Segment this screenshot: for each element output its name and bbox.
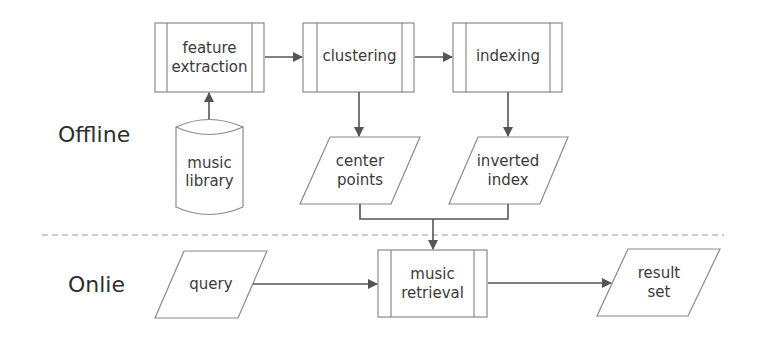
result-set-line1: result: [638, 264, 680, 282]
center-points-line2: points: [337, 171, 383, 189]
inverted-index-line1: inverted: [477, 152, 540, 170]
center-points-label: center points: [318, 137, 402, 204]
music-library-label: music library: [176, 138, 243, 206]
music-retrieval-line1: music: [410, 265, 454, 283]
offline-label: Offline: [58, 122, 130, 147]
indexing-label: indexing: [466, 23, 550, 90]
clustering-line1: clustering: [322, 47, 396, 65]
result-set-line2: set: [648, 283, 671, 301]
result-set-label: result set: [614, 249, 704, 316]
music-retrieval-label: music retrieval: [391, 250, 474, 317]
indexing-line1: indexing: [476, 47, 540, 65]
center-points-line1: center: [336, 152, 384, 170]
music-retrieval-line2: retrieval: [401, 284, 464, 302]
feature-extraction-label: feature extraction: [167, 23, 252, 92]
connector-center-inverted: [360, 204, 508, 219]
query-label: query: [170, 251, 252, 318]
music-library-line2: library: [185, 172, 233, 190]
query-line1: query: [189, 275, 232, 293]
inverted-index-label: inverted index: [466, 137, 550, 204]
inverted-index-line2: index: [487, 171, 528, 189]
music-library-line1: music: [187, 154, 231, 172]
online-label: Onlie: [68, 272, 125, 297]
feature-extraction-line1: feature: [182, 39, 236, 57]
clustering-label: clustering: [317, 23, 402, 90]
feature-extraction-line2: extraction: [171, 58, 247, 76]
